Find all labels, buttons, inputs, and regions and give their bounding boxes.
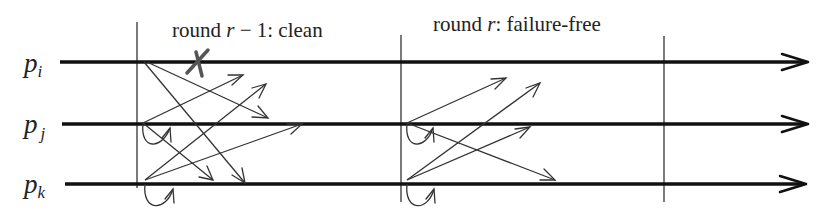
process-timeline-pj <box>62 116 808 132</box>
process-label-pk: pk <box>22 169 46 202</box>
process-timeline-pk <box>65 176 806 192</box>
process-timeline-pi <box>60 54 808 70</box>
round-r-messages <box>407 78 555 206</box>
round-r-title: round r: failure-free <box>433 12 601 36</box>
round-r-minus-1-title: round r − 1: clean <box>172 18 323 42</box>
process-label-pi: pi <box>22 48 43 81</box>
message-diagram: round r − 1: clean round r: failure-free… <box>0 0 829 221</box>
process-label-pj: pj <box>22 109 46 143</box>
